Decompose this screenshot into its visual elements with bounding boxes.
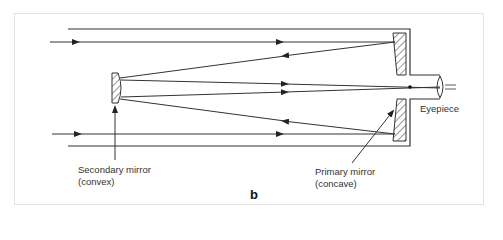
reflected-rays-secondary xyxy=(121,80,440,97)
label-pointers xyxy=(115,107,393,163)
secondary-mirror-label-line2: (convex) xyxy=(78,176,151,188)
focal-point xyxy=(408,85,412,89)
telescope-tube xyxy=(68,29,440,146)
secondary-mirror-label-line1: Secondary mirror xyxy=(78,164,151,176)
reflected-rays-primary xyxy=(120,42,395,134)
incoming-rays xyxy=(50,42,395,134)
primary-mirror-label-line1: Primary mirror xyxy=(315,166,375,178)
primary-mirror-label-line2: (concave) xyxy=(315,178,375,190)
primary-mirror-label: Primary mirror (concave) xyxy=(315,166,375,190)
eyepiece-label: Eyepiece xyxy=(420,103,459,115)
secondary-mirror xyxy=(112,73,121,103)
secondary-mirror-label: Secondary mirror (convex) xyxy=(78,164,151,188)
panel-label: b xyxy=(250,187,258,202)
